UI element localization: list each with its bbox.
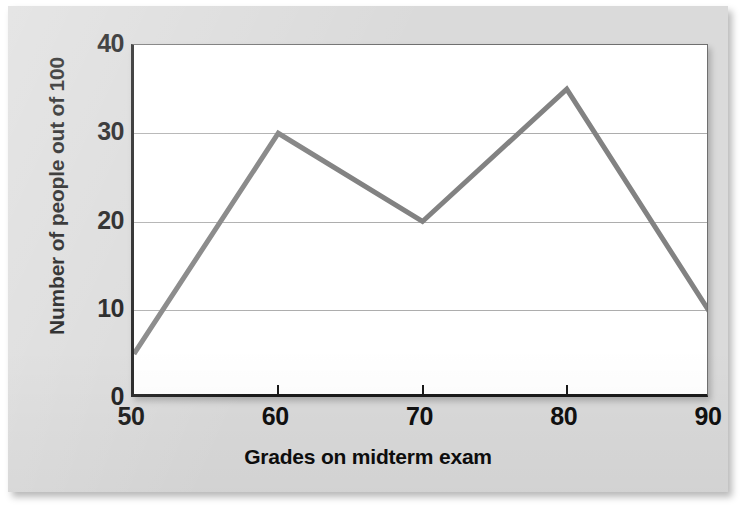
y-axis-title: Number of people out of 100 [45, 26, 69, 366]
plot-area [131, 44, 708, 397]
x-tick-label: 70 [406, 404, 433, 429]
x-axis-tick-labels: 5060708090 [8, 404, 728, 438]
y-tick-label: 20 [97, 208, 124, 233]
x-tick-label: 50 [118, 404, 145, 429]
figure-panel: 010203040 5060708090 Number of people ou… [8, 6, 728, 492]
x-tick-label: 60 [262, 404, 289, 429]
data-series-line [134, 45, 707, 394]
x-tick-label: 80 [550, 404, 577, 429]
y-tick-label: 30 [97, 119, 124, 144]
x-tick-label: 90 [695, 404, 722, 429]
x-axis-title: Grades on midterm exam [8, 445, 728, 469]
plot-inner [134, 45, 707, 394]
y-tick-label: 10 [97, 296, 124, 321]
y-tick-label: 40 [97, 31, 124, 56]
